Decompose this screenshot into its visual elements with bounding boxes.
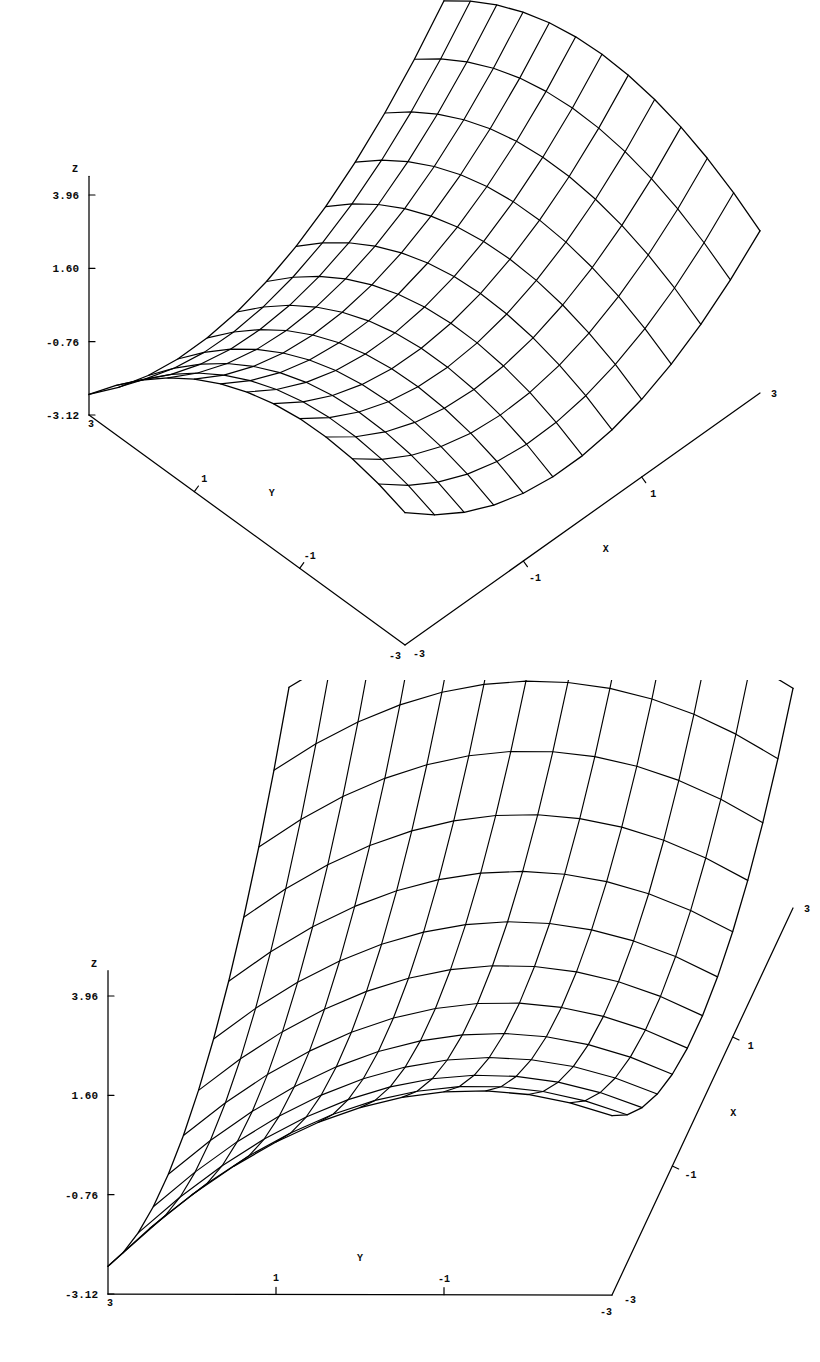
x-tick	[642, 477, 646, 483]
x-axis-title: X	[603, 544, 609, 555]
z-tick-label: -0.76	[65, 1190, 98, 1202]
axes-group	[89, 176, 760, 645]
z-axis-title: Z	[91, 959, 97, 970]
mesh-edge-col	[444, 1, 760, 231]
mesh-col	[274, 681, 778, 770]
y-tick	[300, 563, 304, 569]
z-tick-label: 3.96	[72, 991, 98, 1003]
mesh-edge-row	[405, 231, 760, 515]
corner-x-label: -3	[624, 1295, 636, 1306]
z-axis-title: Z	[72, 164, 78, 175]
mesh-col	[385, 112, 701, 325]
mesh-edge-row	[612, 688, 793, 1115]
y-axis-start-label: 3	[88, 419, 94, 430]
mesh-col	[244, 815, 748, 918]
y-axis-start-label: 3	[107, 1298, 113, 1309]
mesh-col	[326, 204, 642, 399]
surface-plot-bottom-panel: -3.12-0.761.603.96Z1-1Y-11X3-3-33	[0, 680, 820, 1362]
x-tick-label: -1	[684, 1170, 696, 1181]
y-tick-label: -1	[304, 551, 316, 562]
mesh-row	[300, 99, 655, 418]
mesh-col	[168, 1034, 672, 1175]
x-tick	[523, 561, 527, 567]
y-tick-label: 1	[273, 1273, 279, 1284]
z-tick-label: -3.12	[46, 410, 79, 422]
mesh-col	[138, 1075, 642, 1233]
x-tick-label: -1	[529, 573, 541, 584]
mesh-row	[444, 680, 625, 1092]
axes-group	[108, 908, 793, 1295]
mesh-row	[194, 23, 549, 379]
mesh-row	[168, 12, 523, 378]
mesh-row	[273, 75, 628, 403]
corner-y-label: -3	[389, 651, 401, 662]
mesh-col	[414, 59, 730, 280]
corner-x-label: -3	[413, 649, 425, 660]
mesh-edge-col	[108, 1091, 612, 1266]
y-tick	[194, 486, 198, 492]
x-axis-end-label: 3	[771, 389, 777, 400]
mesh-row	[326, 127, 681, 437]
z-tick-label: 1.60	[72, 1090, 98, 1102]
mesh-col	[153, 1058, 657, 1207]
z-tick-label: -0.76	[46, 337, 79, 349]
x-axis-end-label: 3	[804, 904, 810, 915]
y-tick-label: -1	[438, 1274, 450, 1285]
mesh-row	[142, 5, 497, 380]
mesh-col	[214, 922, 718, 1039]
mesh-edge-col	[89, 378, 405, 513]
mesh-row	[247, 54, 602, 392]
mesh-col	[229, 871, 733, 981]
surface-mesh	[89, 1, 760, 515]
x-axis-line	[612, 908, 793, 1295]
surface-plot-bottom-svg: -3.12-0.761.603.96Z1-1Y-11X3-3-33	[0, 680, 820, 1362]
y-tick-label: 1	[201, 474, 207, 485]
z-tick-label: 3.96	[53, 190, 79, 202]
y-axis-title: Y	[269, 488, 275, 499]
mesh-col	[207, 330, 523, 494]
x-axis-line	[405, 393, 760, 645]
x-tick-label: 1	[748, 1041, 754, 1052]
mesh-row	[402, 680, 583, 1097]
y-axis-line	[89, 415, 405, 645]
y-axis-line	[108, 1294, 612, 1295]
mesh-col	[199, 966, 703, 1091]
z-tick-label: -3.12	[65, 1289, 98, 1301]
axis-labels-group: -3.12-0.761.603.96Z1-1Y-11X3-3-33	[46, 164, 777, 662]
mesh-col	[178, 349, 494, 505]
surface-plot-top-svg: -3.12-0.761.603.96Z1-1Y-11X3-3-33	[0, 0, 820, 680]
x-tick	[672, 1166, 678, 1169]
mesh-row	[570, 680, 751, 1103]
mesh-row	[352, 158, 707, 459]
surface-plot-top-panel: -3.12-0.761.603.96Z1-1Y-11X3-3-33	[0, 0, 820, 680]
mesh-row	[150, 680, 331, 1228]
x-tick-label: 1	[650, 489, 656, 500]
y-axis-title: Y	[357, 1253, 363, 1264]
z-tick-label: 1.60	[53, 263, 79, 275]
x-tick	[733, 1037, 739, 1040]
corner-y-label: -3	[600, 1307, 612, 1318]
x-axis-title: X	[730, 1108, 736, 1119]
mesh-edge-row	[108, 687, 289, 1266]
